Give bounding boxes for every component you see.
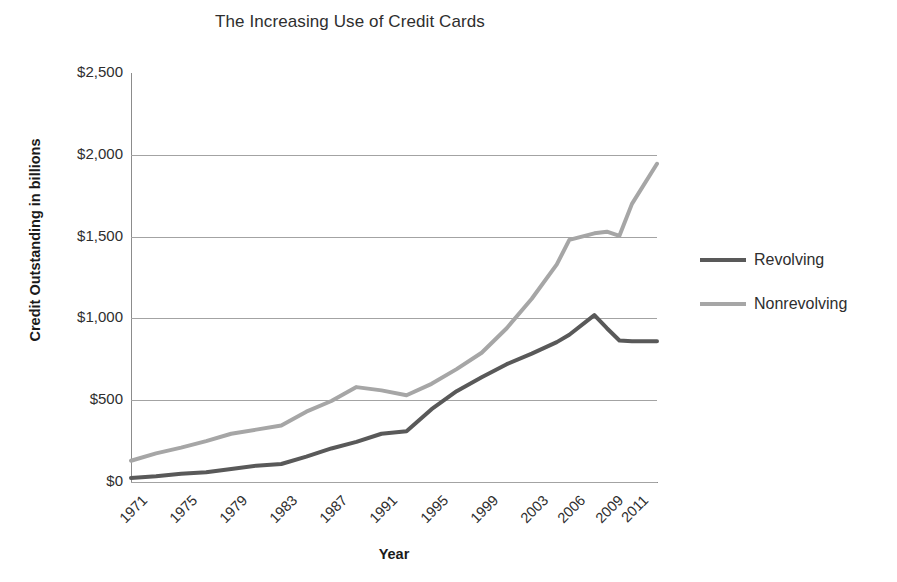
x-axis-tick-label: 1983 [253,492,301,540]
series-lines [131,73,657,482]
y-axis-tick-label: $0 [51,472,123,489]
legend-label: Revolving [754,251,824,269]
x-axis-tick-labels: 1971197519791983198719911995199920032006… [131,484,691,544]
x-axis-tick-label: 1999 [453,492,501,540]
y-axis-tick-label: $1,500 [51,227,123,244]
y-axis-tick-label: $1,000 [51,308,123,325]
y-axis-title: Credit Outstanding in billions [27,90,43,390]
legend-swatch-icon [700,302,746,306]
credit-cards-line-chart: The Increasing Use of Credit Cards $2,50… [0,0,897,582]
y-axis-tick-label: $2,500 [51,63,123,80]
chart-legend: RevolvingNonrevolving [700,238,890,326]
x-axis-tick-label: 1975 [152,492,200,540]
y-axis-tick-label: $2,000 [51,145,123,162]
chart-title: The Increasing Use of Credit Cards [0,12,700,32]
gridline [131,482,657,483]
legend-item-revolving[interactable]: Revolving [700,238,890,282]
x-axis-tick-label: 1987 [303,492,351,540]
y-axis-tick-labels: $2,500$2,000$1,500$1,000$500$0 [48,73,123,482]
x-axis-tick-label: 1991 [353,492,401,540]
plot-area [131,73,657,482]
legend-swatch-icon [700,258,746,262]
series-line-nonrevolving [131,164,657,461]
x-axis-title: Year [131,546,657,562]
legend-label: Nonrevolving [754,295,847,313]
x-axis-tick-label: 1995 [403,492,451,540]
x-axis-tick-label: 1979 [202,492,250,540]
y-axis-tick-label: $500 [51,390,123,407]
x-axis-tick-label: 1971 [102,492,150,540]
series-line-revolving [131,315,657,478]
legend-item-nonrevolving[interactable]: Nonrevolving [700,282,890,326]
